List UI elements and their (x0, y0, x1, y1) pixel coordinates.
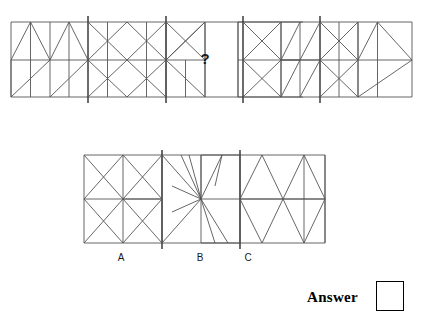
puzzle-root: ? A B C Answer (0, 0, 424, 323)
puzzle-figure (0, 0, 424, 323)
top-cell-4 (127, 22, 166, 97)
top-cell-3 (88, 22, 127, 97)
option-label-c: C (240, 252, 256, 264)
answer-label: Answer (307, 288, 358, 306)
top-cell-9 (358, 22, 412, 97)
top-cell-7 (281, 22, 320, 97)
option-b-figure[interactable] (162, 155, 240, 243)
option-label-a: A (113, 252, 129, 264)
answer-box[interactable] (376, 281, 404, 311)
top-cell-6 (238, 22, 300, 97)
options-strip-group (84, 150, 325, 249)
top-cell-2 (50, 22, 88, 97)
top-cell-8 (320, 22, 358, 97)
top-cell-1 (11, 22, 50, 97)
question-mark: ? (196, 50, 214, 68)
option-label-b: B (192, 252, 208, 264)
option-c-figure[interactable] (240, 155, 325, 243)
